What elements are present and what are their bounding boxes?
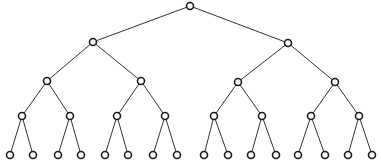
tree-node	[273, 152, 280, 159]
tree-node	[78, 152, 85, 159]
tree-edge	[105, 116, 117, 155]
tree-edge	[214, 116, 228, 155]
tree-edge	[117, 116, 128, 155]
tree-node	[356, 113, 363, 120]
tree-edge	[190, 6, 288, 43]
tree-edge	[238, 43, 288, 82]
tree-node	[201, 152, 208, 159]
tree-nodes	[7, 3, 376, 159]
tree-edge	[70, 116, 81, 155]
tree-edge	[288, 43, 335, 82]
tree-edge	[153, 116, 165, 155]
tree-node	[138, 78, 145, 85]
tree-edge	[311, 116, 325, 155]
binary-tree-diagram	[0, 0, 381, 164]
tree-edge	[238, 82, 262, 116]
tree-edge	[10, 116, 22, 155]
tree-node	[162, 113, 169, 120]
tree-node	[308, 113, 315, 120]
tree-node	[235, 79, 242, 86]
tree-edge	[58, 116, 70, 155]
tree-node	[44, 78, 51, 85]
tree-node	[225, 152, 232, 159]
tree-edge	[298, 116, 311, 155]
tree-edge	[47, 81, 70, 116]
tree-node	[211, 113, 218, 120]
tree-edge	[117, 81, 141, 116]
tree-edge	[359, 116, 372, 155]
tree-node	[125, 152, 132, 159]
tree-edge	[47, 42, 93, 81]
tree-edge	[262, 116, 276, 155]
tree-node	[102, 152, 109, 159]
tree-edge	[93, 42, 141, 81]
tree-edge	[93, 6, 190, 42]
tree-node	[332, 79, 339, 86]
tree-edge	[141, 81, 165, 116]
tree-edge	[348, 116, 359, 155]
tree-edge	[22, 116, 33, 155]
tree-node	[345, 152, 352, 159]
tree-node	[322, 152, 329, 159]
tree-edge	[311, 82, 335, 116]
tree-node	[174, 152, 181, 159]
tree-node	[90, 39, 97, 46]
tree-node	[150, 152, 157, 159]
tree-node	[30, 152, 37, 159]
tree-edge	[165, 116, 177, 155]
tree-node	[259, 113, 266, 120]
tree-edge	[335, 82, 359, 116]
tree-node	[7, 152, 14, 159]
tree-edge	[214, 82, 238, 116]
tree-node	[248, 152, 255, 159]
tree-node	[295, 152, 302, 159]
tree-node	[369, 152, 376, 159]
tree-node	[187, 3, 194, 10]
tree-edges	[10, 6, 372, 155]
tree-edge	[22, 81, 47, 116]
tree-node	[67, 113, 74, 120]
tree-edge	[204, 116, 214, 155]
tree-node	[285, 40, 292, 47]
tree-node	[55, 152, 62, 159]
tree-node	[19, 113, 26, 120]
tree-node	[114, 113, 121, 120]
tree-edge	[251, 116, 262, 155]
